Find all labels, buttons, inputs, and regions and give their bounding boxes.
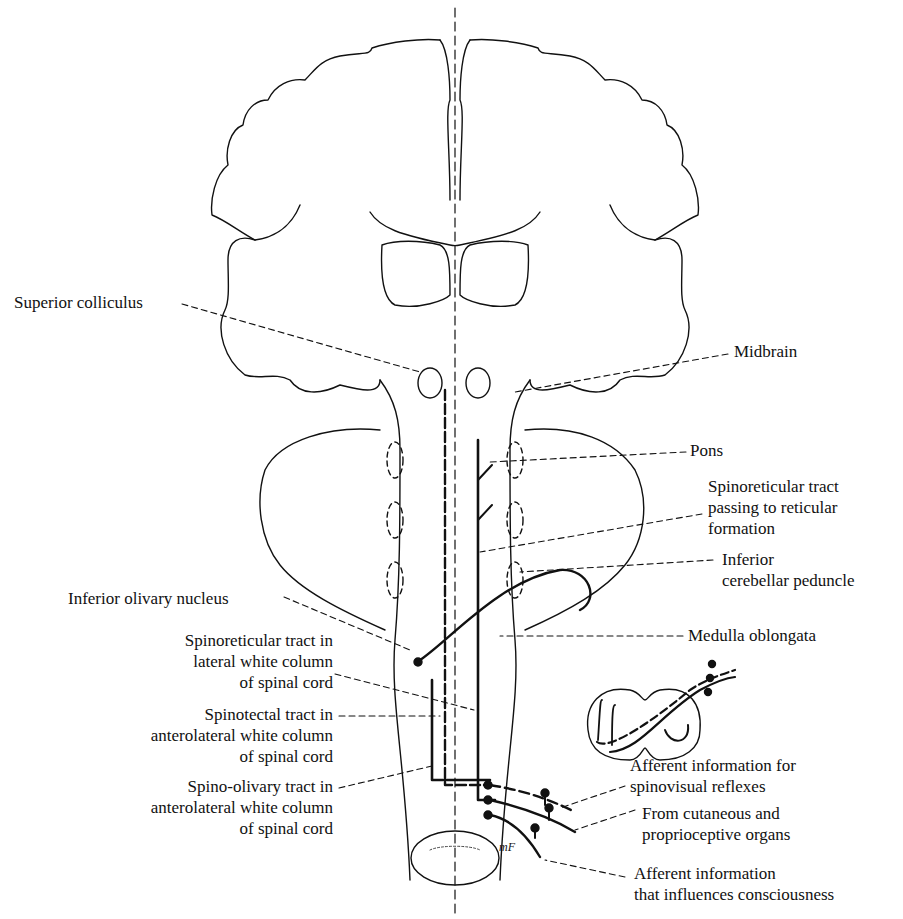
- right-thalamus: [460, 241, 528, 306]
- label-inferior-olivary-nucleus: Inferior olivary nucleus: [68, 588, 229, 609]
- label-spinoreticular-lateral: Spinoreticular tract in lateral white co…: [185, 630, 333, 693]
- label-pons: Pons: [690, 440, 723, 461]
- label-line: Afferent information for: [630, 755, 796, 776]
- left-hemisphere: [212, 39, 440, 240]
- label-cutaneous: From cutaneous and proprioceptive organs: [642, 803, 790, 845]
- label-line: of spinal cord: [151, 746, 333, 767]
- label-midbrain: Midbrain: [734, 341, 797, 362]
- cerebellum-left: [260, 429, 385, 630]
- label-spino-olivary: Spino-olivary tract in anterolateral whi…: [151, 776, 333, 839]
- spino-olivary-tract: [432, 680, 490, 780]
- label-line: spinovisual reflexes: [630, 776, 796, 797]
- label-line: anterolateral white column: [151, 725, 333, 746]
- afferent-dashed: [490, 785, 575, 812]
- label-afferent-spinovisual: Afferent information for spinovisual ref…: [630, 755, 796, 797]
- inset-spinal-section: [588, 661, 735, 761]
- label-line: anterolateral white column: [151, 797, 333, 818]
- superior-colliculus-left: [418, 368, 442, 398]
- spinoreticular-tract: [478, 440, 495, 800]
- label-line: of spinal cord: [151, 818, 333, 839]
- label-spinotectal: Spinotectal tract in anterolateral white…: [151, 704, 333, 767]
- label-line: Spinoreticular tract in: [185, 630, 333, 651]
- label-medulla-oblongata: Medulla oblongata: [688, 625, 816, 646]
- spinotectal-tract: [445, 390, 490, 785]
- left-thalamus: [382, 241, 450, 306]
- superior-colliculus-right: [466, 368, 490, 398]
- label-spinoreticular-passing: Spinoreticular tract passing to reticula…: [708, 476, 839, 539]
- label-line: From cutaneous and: [642, 803, 790, 824]
- label-line: formation: [708, 518, 839, 539]
- label-inferior-cerebellar-peduncle: Inferior cerebellar peduncle: [722, 549, 855, 591]
- label-superior-colliculus: Superior colliculus: [14, 292, 143, 313]
- label-line: passing to reticular: [708, 497, 839, 518]
- label-line: proprioceptive organs: [642, 824, 790, 845]
- label-line: Spino-olivary tract in: [151, 776, 333, 797]
- right-hemisphere: [470, 39, 698, 240]
- label-line: Spinoreticular tract: [708, 476, 839, 497]
- right-temporal: [530, 238, 689, 392]
- label-line: that influences consciousness: [634, 884, 834, 905]
- label-line: of spinal cord: [185, 672, 333, 693]
- label-mf: mF: [499, 840, 515, 855]
- left-temporal: [221, 238, 380, 392]
- label-line: lateral white column: [185, 651, 333, 672]
- label-afferent-consciousness: Afferent information that influences con…: [634, 863, 834, 905]
- label-line: Inferior: [722, 549, 855, 570]
- label-line: Spinotectal tract in: [151, 704, 333, 725]
- label-line: Afferent information: [634, 863, 834, 884]
- label-line: cerebellar peduncle: [722, 570, 855, 591]
